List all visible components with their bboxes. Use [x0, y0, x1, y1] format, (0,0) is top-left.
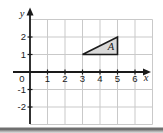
x-tick-label: 5: [115, 73, 120, 84]
y-tick-label: -1: [18, 84, 26, 95]
x-tick-label: 2: [62, 73, 67, 84]
origin-label: 0: [19, 73, 24, 84]
y-axis-label: y: [19, 8, 25, 19]
y-tick-label: 2: [21, 31, 26, 42]
x-tick-label: 6: [132, 73, 137, 84]
coordinate-plane: A12345621-1-20xy: [0, 0, 163, 133]
x-axis-label: x: [143, 72, 149, 83]
y-axis-arrowhead: [27, 8, 34, 16]
x-tick-label: 1: [45, 73, 50, 84]
x-tick-label: 3: [80, 73, 85, 84]
y-tick-label: -2: [18, 101, 26, 112]
coordinate-grid-figure: A12345621-1-20xy: [0, 0, 163, 133]
y-tick-label: 1: [21, 49, 26, 60]
x-tick-label: 4: [97, 73, 102, 84]
bottom-border-bar: [0, 126, 163, 133]
shape-label: A: [107, 41, 115, 52]
